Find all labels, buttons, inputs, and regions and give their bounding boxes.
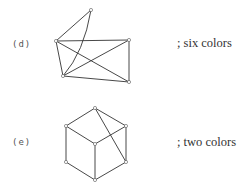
graph-diagrams <box>0 0 245 185</box>
graph-e-edge <box>66 108 95 126</box>
graph-d-edge <box>56 41 63 76</box>
graph-e-edge <box>95 108 126 162</box>
graph-e-vertex-bottom <box>93 178 96 181</box>
graph-d <box>54 8 130 83</box>
graph-e-vertex-lower-left <box>64 160 67 163</box>
graph-d-vertex-lower-right <box>127 80 130 83</box>
graph-e-vertex-upper-right <box>124 124 127 127</box>
graph-d-vertex-upper-left <box>54 39 57 42</box>
graph-e-vertex-center <box>93 142 96 145</box>
graph-d-vertex-upper-right <box>127 38 130 41</box>
graph-e-edge <box>95 162 126 180</box>
graph-e-edge <box>66 126 95 144</box>
graph-e-vertex-top <box>93 106 96 109</box>
graph-e-vertex-upper-left <box>64 124 67 127</box>
graph-d-edge <box>56 10 91 41</box>
graph-d-edge <box>56 41 129 82</box>
graph-e <box>64 106 127 181</box>
graph-d-vertex-top <box>89 8 92 11</box>
graph-e-vertex-lower-right <box>124 160 127 163</box>
graph-d-edge <box>63 40 129 76</box>
graph-d-edge <box>56 40 129 41</box>
graph-e-edge <box>66 162 95 180</box>
graph-d-vertex-lower-left <box>61 74 64 77</box>
graph-d-edge-curved <box>63 10 91 76</box>
